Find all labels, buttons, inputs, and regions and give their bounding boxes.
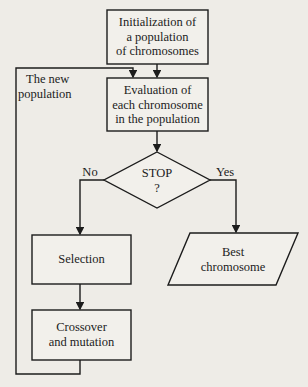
- stop-line-1: STOP: [127, 166, 187, 181]
- evaluation-line-2: each chromosome: [107, 98, 208, 113]
- evaluation-line-3: in the population: [107, 112, 208, 127]
- node-init-label: Initialization of a population of chromo…: [107, 15, 208, 59]
- best-line-2: chromosome: [183, 260, 283, 275]
- node-evaluation-label: Evaluation of each chromosome in the pop…: [107, 83, 208, 127]
- edge-stop-selection: [80, 180, 104, 234]
- edge-label-yes: Yes: [212, 165, 238, 180]
- node-stop-label: STOP ?: [127, 166, 187, 195]
- node-best-label: Best chromosome: [183, 245, 283, 274]
- init-line-2: a population: [107, 30, 208, 45]
- node-selection-label: Selection: [32, 252, 131, 267]
- node-crossover-label: Crossover and mutation: [32, 320, 131, 349]
- loop-label-line-2: population: [18, 87, 88, 102]
- init-line-3: of chromosomes: [107, 44, 208, 59]
- edge-stop-best: [210, 180, 236, 232]
- loop-label-line-1: The new: [18, 72, 88, 87]
- crossover-line-1: Crossover: [32, 320, 131, 335]
- loop-label: The new population: [18, 72, 88, 101]
- stop-line-2: ?: [127, 181, 187, 196]
- edge-label-no: No: [78, 165, 102, 180]
- evaluation-line-1: Evaluation of: [107, 83, 208, 98]
- best-line-1: Best: [183, 245, 283, 260]
- crossover-line-2: and mutation: [32, 335, 131, 350]
- init-line-1: Initialization of: [107, 15, 208, 30]
